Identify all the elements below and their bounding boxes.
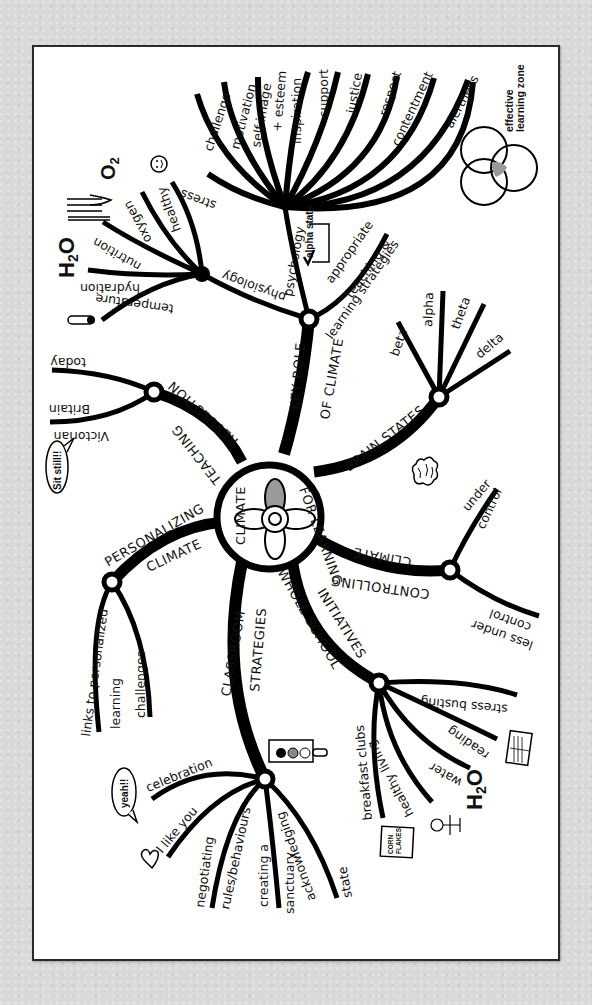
yeah-speech-bubble: yeah!! xyxy=(112,768,137,822)
personalizing-item: learning xyxy=(108,678,123,729)
learning-strategies-label: learning strategies xyxy=(322,237,402,342)
yeah-text: yeah!! xyxy=(119,779,130,808)
classroom-label: CLASSROOM xyxy=(218,609,248,698)
physiology-items: temperature hydration nutrition oxygen h… xyxy=(54,156,184,324)
revolution-item: Victorian xyxy=(54,429,109,444)
psychology-item: alertness xyxy=(441,73,481,131)
mind-map: CLIMATE FOR LEARNING KEY ROLE OF CLIMATE… xyxy=(34,47,562,963)
classroom-items: celebration I like you negotiating rules… xyxy=(112,740,355,914)
brain-states-items: beta alpha theta delta xyxy=(387,292,506,361)
sit-still-speech-bubble: Sit still!! xyxy=(46,438,74,493)
strategies-label: STRATEGIES xyxy=(247,607,269,692)
psychology-item: inspiration xyxy=(289,78,304,144)
mind-map-card: CLIMATE FOR LEARNING KEY ROLE OF CLIMATE… xyxy=(32,45,560,961)
personalizing-items: links to personalized learning challenge… xyxy=(78,608,148,738)
brain-states-label: BRAIN STATES xyxy=(342,403,428,475)
heart-icon xyxy=(141,850,158,869)
alpha-state-badge: alpha state xyxy=(304,205,329,264)
whole-school-items: breakfast clubs healthy living water rea… xyxy=(352,694,532,857)
physiology-item: hydration xyxy=(80,281,140,296)
controlling-items: under control control less under xyxy=(459,476,535,654)
book-icon xyxy=(506,731,532,766)
effective-learning-zone-label: effective learning zone xyxy=(503,64,526,132)
personalizing-item: challenges xyxy=(133,651,148,718)
whole-school-item: stress busting xyxy=(420,694,509,717)
psychology-item: respect xyxy=(376,69,405,118)
controlling-label: CONTROLLING xyxy=(329,573,430,602)
stick-figure-icon xyxy=(431,815,460,835)
personalizing-item: links to personalized xyxy=(78,608,111,738)
psychology-item: + esteem xyxy=(269,70,289,132)
cutlery-icon xyxy=(67,195,111,220)
classroom-item: creating a xyxy=(256,844,271,907)
revolution-item: Britain xyxy=(49,402,90,417)
thermometer-icon xyxy=(68,316,95,324)
brain-state-item: alpha xyxy=(420,292,436,327)
key-role-label-2: OF CLIMATE xyxy=(317,337,346,421)
h2o-icon: H2O xyxy=(54,237,81,278)
venn-intersection xyxy=(492,162,507,177)
o2-icon: O2 xyxy=(97,157,122,180)
h2o-icon: H2O xyxy=(462,769,489,810)
revolution-item: today xyxy=(50,355,86,370)
sit-still-text: Sit still!! xyxy=(52,451,63,490)
svg-text:FLAKES: FLAKES xyxy=(395,827,402,854)
cereal-box-icon: CORN FLAKES xyxy=(380,826,414,858)
svg-text:CORN: CORN xyxy=(387,835,394,854)
key-role-label: KEY ROLE xyxy=(287,342,308,411)
brain-icon xyxy=(412,457,437,485)
brain-state-item: theta xyxy=(448,295,473,331)
psychology-item: support xyxy=(316,69,331,117)
center-label-climate: CLIMATE xyxy=(233,486,248,545)
smiley-icon xyxy=(151,156,167,172)
traffic-light-icon xyxy=(269,740,327,762)
